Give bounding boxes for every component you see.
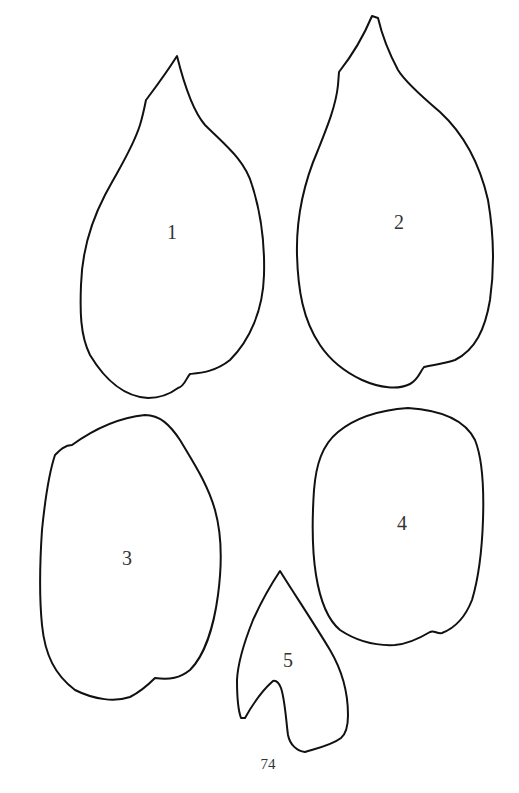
- shape-4-label: 4: [397, 512, 407, 535]
- shape-2-label: 2: [394, 211, 404, 234]
- pattern-sheet: [0, 0, 519, 793]
- shape-3-label: 3: [122, 547, 132, 570]
- page-number: 74: [261, 756, 276, 773]
- shape-1-label: 1: [167, 221, 177, 244]
- shape-5-label: 5: [283, 649, 293, 672]
- shape-2-outline: [297, 16, 493, 387]
